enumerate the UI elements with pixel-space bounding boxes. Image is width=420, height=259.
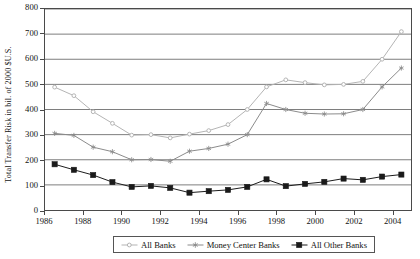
data-point-all-other-banks bbox=[187, 190, 192, 195]
legend-label: Money Center Banks bbox=[207, 240, 280, 250]
star-marker bbox=[187, 240, 204, 250]
plot-area bbox=[44, 8, 412, 211]
x-tick-label: 2004 bbox=[373, 217, 413, 226]
data-point-all-other-banks bbox=[225, 187, 230, 192]
data-point-all-other-banks bbox=[322, 179, 327, 184]
data-point-all-banks bbox=[130, 133, 134, 137]
data-point-all-banks bbox=[265, 85, 269, 89]
x-tick-mark bbox=[121, 211, 122, 215]
y-tick-label: 100 bbox=[8, 181, 38, 190]
data-point-all-banks bbox=[361, 79, 365, 83]
x-tick-label: 1988 bbox=[63, 217, 103, 226]
y-tick-label: 400 bbox=[8, 105, 38, 114]
data-point-all-other-banks bbox=[341, 176, 346, 181]
x-axis-ticks: 1986198819901992199419961998200020022004 bbox=[0, 211, 420, 233]
legend-entry: Money Center Banks bbox=[187, 240, 280, 250]
data-point-all-other-banks bbox=[71, 167, 76, 172]
data-point-all-banks bbox=[399, 30, 403, 34]
data-point-all-banks bbox=[207, 129, 211, 133]
x-tick-mark bbox=[393, 211, 394, 215]
x-tick-label: 1992 bbox=[140, 217, 180, 226]
data-point-all-banks bbox=[91, 110, 95, 114]
data-point-all-other-banks bbox=[52, 162, 57, 167]
data-point-all-banks bbox=[226, 123, 230, 127]
data-point-all-banks bbox=[53, 85, 57, 89]
data-point-all-other-banks bbox=[168, 185, 173, 190]
data-point-all-other-banks bbox=[264, 177, 269, 182]
x-tick-mark bbox=[83, 211, 84, 215]
data-point-all-banks bbox=[149, 133, 153, 137]
y-tick-label: 700 bbox=[8, 29, 38, 38]
data-point-all-banks bbox=[111, 121, 115, 125]
y-tick-label: 300 bbox=[8, 130, 38, 139]
data-point-all-other-banks bbox=[245, 184, 250, 189]
y-tick-label: 200 bbox=[8, 156, 38, 165]
x-tick-mark bbox=[276, 211, 277, 215]
y-tick-label: 800 bbox=[8, 3, 38, 12]
legend-label: All Banks bbox=[141, 240, 176, 250]
data-point-all-other-banks bbox=[148, 183, 153, 188]
data-point-all-other-banks bbox=[283, 184, 288, 189]
x-tick-mark bbox=[354, 211, 355, 215]
data-point-all-banks bbox=[284, 78, 288, 82]
data-point-all-banks bbox=[72, 94, 76, 98]
data-point-all-other-banks bbox=[91, 173, 96, 178]
legend-label: All Other Banks bbox=[311, 240, 367, 250]
data-point-all-other-banks bbox=[302, 181, 307, 186]
x-tick-mark bbox=[44, 211, 45, 215]
data-point-all-other-banks bbox=[360, 177, 365, 182]
data-point-all-banks bbox=[188, 132, 192, 136]
y-tick-label: 600 bbox=[8, 54, 38, 63]
data-point-all-banks bbox=[342, 82, 346, 86]
data-point-all-banks bbox=[303, 81, 307, 85]
x-tick-label: 1998 bbox=[256, 217, 296, 226]
legend-marker bbox=[296, 242, 301, 247]
x-tick-label: 2002 bbox=[334, 217, 374, 226]
x-tick-label: 1996 bbox=[218, 217, 258, 226]
series-line-money-center-banks bbox=[55, 68, 402, 161]
data-point-all-other-banks bbox=[399, 172, 404, 177]
x-tick-label: 2000 bbox=[295, 217, 335, 226]
x-tick-label: 1986 bbox=[24, 217, 64, 226]
data-point-all-banks bbox=[168, 136, 172, 140]
data-point-all-banks bbox=[322, 83, 326, 87]
square-marker bbox=[291, 240, 308, 250]
x-tick-label: 1990 bbox=[101, 217, 141, 226]
data-point-all-other-banks bbox=[110, 180, 115, 185]
legend-entry: All Banks bbox=[121, 240, 176, 250]
x-tick-label: 1994 bbox=[179, 217, 219, 226]
chart-legend: All BanksMoney Center BanksAll Other Ban… bbox=[113, 236, 375, 253]
y-tick-label: 500 bbox=[8, 80, 38, 89]
dot-marker bbox=[121, 240, 138, 250]
legend-marker bbox=[127, 243, 131, 247]
legend-entry: All Other Banks bbox=[291, 240, 367, 250]
x-tick-mark bbox=[199, 211, 200, 215]
x-tick-mark bbox=[315, 211, 316, 215]
data-point-all-banks bbox=[245, 108, 249, 112]
x-tick-mark bbox=[160, 211, 161, 215]
plot-canvas bbox=[45, 9, 411, 210]
x-tick-mark bbox=[238, 211, 239, 215]
data-point-all-other-banks bbox=[129, 184, 134, 189]
data-point-all-other-banks bbox=[380, 174, 385, 179]
data-point-all-other-banks bbox=[206, 189, 211, 194]
transfer-risk-line-chart: Total Transfer Risk in bil. of 2000 $U.S… bbox=[0, 0, 420, 259]
data-point-all-banks bbox=[380, 57, 384, 61]
